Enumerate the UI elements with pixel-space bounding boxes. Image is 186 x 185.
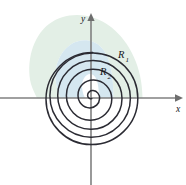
region-r1-label: R <box>117 49 125 60</box>
region-r1-subscript: 1 <box>126 56 130 64</box>
x-axis-arrowhead <box>175 94 183 101</box>
region-r2-subscript: 2 <box>108 73 112 81</box>
x-axis-label: x <box>175 104 181 114</box>
spiral-diagram: R 1 R 2 y x <box>0 0 186 185</box>
y-axis-label: y <box>80 14 86 24</box>
region-r2-label: R <box>99 66 107 77</box>
figure-container: R 1 R 2 y x <box>0 0 186 185</box>
